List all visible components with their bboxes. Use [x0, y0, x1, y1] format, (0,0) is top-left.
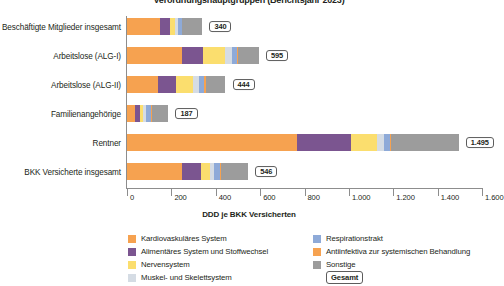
bar-segment[interactable] [127, 47, 182, 64]
x-tick [216, 188, 217, 196]
bar-segment[interactable] [158, 76, 176, 93]
x-tick-label: 1.400 [441, 193, 460, 202]
stacked-bar[interactable] [127, 134, 459, 151]
bar-total-label: 444 [233, 79, 255, 91]
bar-segment[interactable] [203, 47, 225, 64]
x-tick-label: 200 [174, 193, 186, 202]
legend-item-label: Sonstige [326, 260, 356, 269]
stacked-bar[interactable] [127, 47, 259, 64]
bar-row: BKK Versicherte insgesamt546 [127, 163, 482, 180]
legend-swatch-antiinfektiva [313, 248, 321, 256]
bar-segment[interactable] [127, 105, 135, 122]
legend-total-item: Gesamt [313, 271, 470, 284]
bar-segment[interactable] [377, 134, 384, 151]
x-tick [438, 188, 439, 196]
bar-segment[interactable] [182, 163, 201, 180]
x-tick [260, 188, 261, 196]
bar-total-label: 546 [255, 166, 277, 178]
bar-segment[interactable] [238, 47, 259, 64]
legend-item-label: Alimentäres System und Stoffwechsel [141, 247, 268, 256]
x-tick [127, 188, 128, 196]
bar-segment[interactable] [127, 76, 158, 93]
bar-row: Arbeitslose (ALG-I)595 [127, 47, 482, 64]
legend-item[interactable]: Alimentäres System und Stoffwechsel [128, 245, 268, 258]
legend-item[interactable]: Nervensystem [128, 258, 268, 271]
bar-segment[interactable] [206, 76, 226, 93]
bar-segment[interactable] [182, 47, 203, 64]
bar-row-label: BKK Versicherte insgesamt [24, 167, 121, 176]
legend-swatch-muskel [128, 274, 136, 282]
x-tick-label: 1.000 [352, 193, 371, 202]
bar-row: Familienangehörige187 [127, 105, 482, 122]
bar-segment[interactable] [391, 134, 459, 151]
stacked-bar[interactable] [127, 163, 248, 180]
stacked-bar[interactable] [127, 76, 225, 93]
bar-segment[interactable] [176, 76, 193, 93]
bar-row-label: Familienangehörige [51, 109, 121, 118]
legend-swatch-sonstige [313, 261, 321, 269]
stacked-bar[interactable] [127, 105, 168, 122]
bar-segment[interactable] [127, 18, 160, 35]
bar-segment[interactable] [221, 163, 248, 180]
legend-total-badge: Gesamt [326, 271, 363, 284]
legend-swatch-nerven [128, 261, 136, 269]
legend-item[interactable]: Kardiovaskuläres System [128, 232, 268, 245]
x-axis-label: DDD je BKK Versicherten [0, 210, 498, 219]
bar-total-label: 595 [266, 50, 288, 62]
bar-row: Arbeitslose (ALG-II)444 [127, 76, 482, 93]
bar-row-label: Beschäftigte Mitglieder insgesamt [2, 22, 121, 31]
legend: Kardiovaskuläres SystemAlimentäres Syste… [128, 232, 498, 284]
x-tick-label: 800 [308, 193, 320, 202]
bar-segment[interactable] [351, 134, 377, 151]
bar-segment[interactable] [160, 18, 169, 35]
bar-row-label: Arbeitslose (ALG-I) [53, 51, 121, 60]
bar-row: Rentner1.495 [127, 134, 482, 151]
x-tick [171, 188, 172, 196]
chart-title: Verordnungshauptgruppen (Berichtsjahr 20… [0, 0, 498, 5]
x-tick-label: 1.200 [396, 193, 415, 202]
legend-swatch-respiration [313, 235, 321, 243]
x-tick-label: 600 [263, 193, 275, 202]
bar-segment[interactable] [225, 47, 232, 64]
legend-column-right: RespirationstraktAntiinfektiva zur syste… [313, 232, 470, 284]
bar-total-label: 1.495 [466, 137, 494, 149]
bar-segment[interactable] [201, 163, 210, 180]
legend-column-left: Kardiovaskuläres SystemAlimentäres Syste… [128, 232, 268, 284]
legend-item[interactable]: Respirationstrakt [313, 232, 470, 245]
x-tick [393, 188, 394, 196]
legend-item[interactable]: Sonstige [313, 258, 470, 271]
x-tick [305, 188, 306, 196]
x-tick-label: 1.600 [485, 193, 504, 202]
bar-row-label: Arbeitslose (ALG-II) [51, 80, 121, 89]
bar-segment[interactable] [182, 18, 202, 35]
bar-row: Beschäftigte Mitglieder insgesamt340 [127, 18, 482, 35]
bar-total-label: 340 [209, 21, 231, 33]
legend-swatch-alimentar [128, 248, 136, 256]
bar-segment[interactable] [152, 105, 168, 122]
x-tick-label: 400 [219, 193, 231, 202]
bar-row-label: Rentner [93, 138, 121, 147]
x-tick [349, 188, 350, 196]
legend-item-label: Kardiovaskuläres System [141, 234, 227, 243]
legend-item[interactable]: Muskel- und Skelettsystem [128, 271, 268, 284]
bar-total-label: 187 [175, 108, 197, 120]
legend-item-label: Antiinfektiva zur systemischen Behandlun… [326, 247, 470, 256]
bar-segment[interactable] [127, 134, 297, 151]
legend-item[interactable]: Antiinfektiva zur systemischen Behandlun… [313, 245, 470, 258]
bar-segment[interactable] [127, 163, 182, 180]
legend-item-label: Respirationstrakt [326, 234, 383, 243]
stacked-bar[interactable] [127, 18, 202, 35]
legend-item-label: Muskel- und Skelettsystem [141, 273, 232, 282]
legend-item-label: Nervensystem [141, 260, 190, 269]
bar-segment[interactable] [297, 134, 351, 151]
legend-swatch-kardiovaskular [128, 235, 136, 243]
x-tick [482, 188, 483, 196]
x-tick-label: 0 [130, 193, 134, 202]
plot-area: Beschäftigte Mitglieder insgesamt340Arbe… [127, 16, 482, 188]
